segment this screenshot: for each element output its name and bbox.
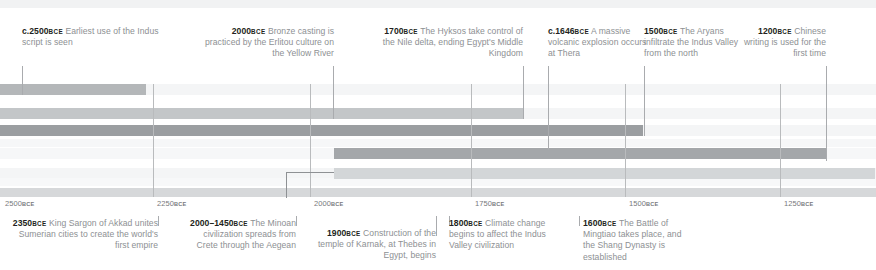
era-suffix: BCE xyxy=(331,201,343,207)
era-suffix: BCE xyxy=(801,201,813,207)
ancient-history-timeline: 2500BCE2250BCE2000BCE1750BCE1500BCE1250B… xyxy=(0,0,876,270)
event-leader-line xyxy=(826,66,827,161)
timeline-axis xyxy=(0,188,876,197)
event-callout-top: 1700BCE The Hyksos take control of the N… xyxy=(370,26,523,60)
event-callout-top: c.1646BCE A massive volcanic explosion o… xyxy=(548,26,648,60)
era-suffix: BCE xyxy=(777,28,791,35)
event-year: 2350BCE xyxy=(13,218,47,228)
axis-tick-label: 2500BCE xyxy=(5,199,35,208)
axis-tick-label: 1500BCE xyxy=(629,199,659,208)
era-suffix: BCE xyxy=(32,220,46,227)
axis-tick xyxy=(471,84,472,197)
event-leader-line xyxy=(548,66,549,150)
axis-tick-label: 1750BCE xyxy=(475,199,505,208)
event-year: c.1646BCE xyxy=(548,26,589,36)
axis-tick-label: 2000BCE xyxy=(314,199,344,208)
axis-tick-label: 2250BCE xyxy=(157,199,187,208)
era-suffix: BCE xyxy=(22,201,34,207)
event-leader-line xyxy=(644,66,645,136)
event-leader-line xyxy=(333,66,334,119)
event-leader-line xyxy=(436,216,437,236)
event-callout-bottom: 2350BCE King Sargon of Akkad unites Sume… xyxy=(12,218,158,252)
era-suffix: BCE xyxy=(492,201,504,207)
background-band xyxy=(0,178,876,186)
event-leader-line xyxy=(22,66,23,95)
event-callout-bottom: 1600BCE The Battle of Mingtiao takes pla… xyxy=(583,218,693,263)
event-callout-bottom: 2000–1450BCE The Minoan civilization spr… xyxy=(186,218,296,252)
event-year: c.2500BCE xyxy=(22,26,63,36)
era-suffix: BCE xyxy=(602,220,616,227)
event-year: 1900BCE xyxy=(327,228,361,238)
background-band xyxy=(0,139,876,147)
event-callout-top: c.2500BCE Earliest use of the Indus scri… xyxy=(22,26,172,48)
minoan-span-connector-stem xyxy=(286,172,287,198)
event-callout-top: 2000BCE Bronze casting is practiced by t… xyxy=(198,26,334,60)
event-leader-line xyxy=(523,66,524,119)
era-suffix: BCE xyxy=(468,220,482,227)
event-year: 1200BCE xyxy=(758,26,792,36)
event-callout-bottom: 1800BCE Climate change begins to affect … xyxy=(449,218,559,252)
event-callout-top: 1200BCE Chinese writing is used for the … xyxy=(742,26,826,60)
minoan-span-connector xyxy=(286,172,334,173)
era-suffix: BCE xyxy=(174,201,186,207)
event-year: 1600BCE xyxy=(583,218,617,228)
era-bar-3 xyxy=(0,125,643,136)
background-band xyxy=(0,0,876,8)
event-leader-line xyxy=(158,216,159,226)
era-suffix: BCE xyxy=(404,28,418,35)
era-bar-5 xyxy=(334,168,875,179)
era-suffix: BCE xyxy=(346,230,360,237)
event-leader-line xyxy=(296,216,297,226)
event-callout-bottom: 1900BCE Construction of the temple of Ka… xyxy=(300,228,436,262)
era-suffix: BCE xyxy=(575,28,589,35)
era-suffix: BCE xyxy=(663,28,677,35)
era-suffix: BCE xyxy=(234,220,248,227)
event-callout-top: 1500BCE The Aryans infiltrate the Indus … xyxy=(644,26,756,60)
event-year: 1500BCE xyxy=(644,26,678,36)
axis-tick xyxy=(310,84,311,197)
era-suffix: BCE xyxy=(646,201,658,207)
axis-tick xyxy=(625,84,626,197)
event-year: 2000BCE xyxy=(232,26,266,36)
event-year: 2000–1450BCE xyxy=(190,218,248,228)
era-bar-2 xyxy=(0,108,523,119)
axis-tick-label: 1250BCE xyxy=(784,199,814,208)
event-description: Bronze casting is practiced by the Erlit… xyxy=(205,26,334,58)
axis-tick xyxy=(153,84,154,197)
event-leader-line xyxy=(579,216,580,226)
era-suffix: BCE xyxy=(251,28,265,35)
event-year: 1700BCE xyxy=(384,26,418,36)
era-suffix: BCE xyxy=(49,28,63,35)
era-bar-4 xyxy=(334,148,826,159)
event-year: 1800BCE xyxy=(449,218,483,228)
axis-tick xyxy=(780,84,781,197)
